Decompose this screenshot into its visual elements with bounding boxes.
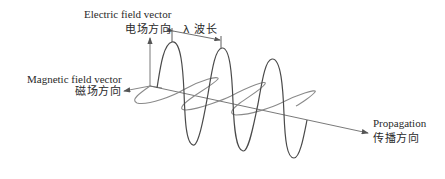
electric-wave	[157, 42, 307, 158]
magnetic-field-label-zh: 磁场方向	[75, 86, 121, 97]
propagation-label: Propagation	[373, 118, 426, 129]
electric-field-label: Electric field vector	[84, 9, 171, 20]
propagation-label-zh: 传播方向	[373, 133, 419, 144]
wavelength-label: λ 波长	[183, 24, 217, 35]
em-wave-diagram: Electric field vector 电场方向 λ 波长 Magnetic…	[0, 0, 445, 179]
wave-drawing	[0, 0, 445, 179]
magnetic-wave	[135, 78, 316, 115]
magnetic-field-label: Magnetic field vector	[27, 74, 122, 85]
electric-field-label-zh: 电场方向	[125, 24, 171, 35]
